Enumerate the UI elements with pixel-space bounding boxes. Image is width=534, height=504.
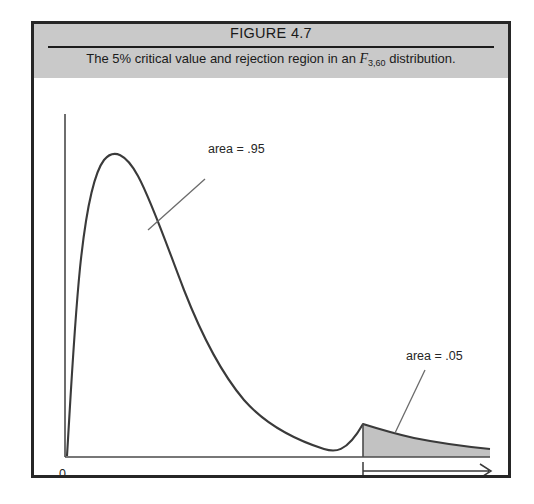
origin-tick-label: 0 [59,467,66,475]
figure-caption: The 5% critical value and rejection regi… [34,51,508,67]
distribution-chart: area = .95 area = .05 0 2.76 rejection r… [34,78,508,475]
caption-suffix: distribution. [386,51,456,66]
density-curve [67,154,490,456]
caption-prefix: The 5% critical value and rejection regi… [86,51,359,66]
area-main-leader-line [148,179,205,230]
plot-area: area = .95 area = .05 0 2.76 rejection r… [34,78,508,475]
caption-distribution-symbol: F [359,51,368,66]
figure-header-band: FIGURE 4.7 The 5% critical value and rej… [34,24,508,78]
area-main-label: area = .95 [208,142,265,156]
caption-degrees-of-freedom: 3,60 [368,58,386,68]
rejection-region-arrow [363,462,491,475]
header-divider-rule [48,46,494,48]
area-tail-leader-line [395,370,425,433]
area-tail-label: area = .05 [406,349,463,363]
figure-root: FIGURE 4.7 The 5% critical value and rej… [0,0,534,504]
figure-frame: FIGURE 4.7 The 5% critical value and rej… [31,21,511,478]
figure-number: FIGURE 4.7 [34,25,508,41]
